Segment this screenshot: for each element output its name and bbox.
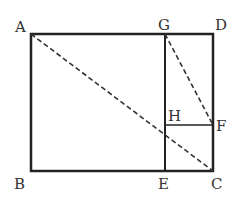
label-g: G [158,16,170,34]
label-c: C [211,175,222,193]
geometry-diagram: A B C D E F G H [0,0,246,204]
label-b: B [14,175,25,193]
diagonal-ac-dashed [31,34,213,171]
label-a: A [14,18,26,36]
label-f: F [216,117,226,135]
label-e: E [158,175,169,193]
label-d: D [215,16,227,34]
label-h: H [168,107,181,125]
